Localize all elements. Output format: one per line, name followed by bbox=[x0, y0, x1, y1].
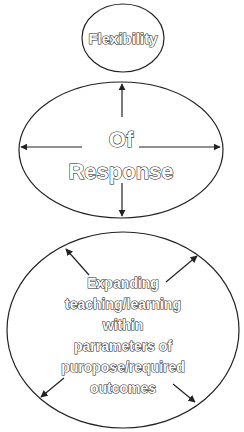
top-circle-label: Flexibility bbox=[88, 30, 158, 47]
bottom-circle-line2: teaching/learning bbox=[65, 296, 181, 312]
bottom-circle-line6: outcomes bbox=[90, 380, 156, 396]
bottom-circle-line5: puropose/required bbox=[61, 359, 185, 375]
bottom-circle: Expanding teaching/learning within parra… bbox=[7, 232, 239, 428]
middle-circle-line1: Of bbox=[109, 127, 134, 152]
bottom-circle-line3: within bbox=[102, 317, 143, 333]
top-circle: Flexibility bbox=[82, 4, 164, 72]
bottom-circle-line1: Expanding bbox=[87, 275, 159, 291]
bottom-circle-line4: parrameters of bbox=[74, 338, 172, 354]
middle-circle: Of Response bbox=[19, 82, 223, 218]
middle-circle-line2: Response bbox=[68, 159, 173, 184]
flexibility-diagram: Flexibility Of Response Expanding teachi… bbox=[0, 0, 244, 432]
